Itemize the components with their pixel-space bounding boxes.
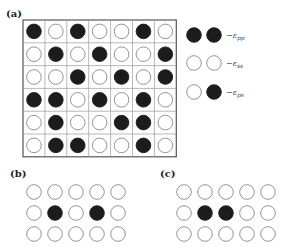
filled-site [136,115,151,130]
empty-site [48,227,63,242]
empty-site [261,185,276,200]
legend-site-right [207,28,222,43]
empty-site [49,24,64,39]
filled-site [198,206,213,221]
empty-site [114,24,129,39]
empty-site [240,227,255,242]
legend-label: −εss [226,59,243,69]
filled-site [27,93,42,108]
empty-site [92,138,107,153]
filled-site [49,138,64,153]
empty-site [49,70,64,85]
empty-site [69,206,84,221]
empty-site [136,70,151,85]
empty-site [92,24,107,39]
empty-site [111,185,126,200]
panel-a-grid [23,20,176,157]
empty-site [92,115,107,130]
empty-site [177,206,192,221]
legend-site-left [187,56,202,71]
empty-site [69,227,84,242]
empty-site [48,185,63,200]
empty-site [261,227,276,242]
filled-site [92,93,107,108]
empty-site [158,93,173,108]
legend-site-right [207,56,222,71]
empty-site [27,70,42,85]
filled-site [136,24,151,39]
empty-site [27,138,42,153]
legend-item-ss: −εss [187,56,243,71]
filled-site [49,93,64,108]
legend: −εpp−εss−εps [187,28,245,100]
filled-site [136,138,151,153]
empty-site [177,185,192,200]
empty-site [114,47,129,62]
filled-site [27,24,42,39]
empty-site [240,206,255,221]
legend-label: −εpp [226,31,245,42]
legend-site-right [207,85,222,100]
legend-subscript: pp [237,34,245,42]
empty-site [114,93,129,108]
filled-site [92,47,107,62]
empty-site [111,206,126,221]
filled-site [114,115,129,130]
filled-site [70,138,85,153]
empty-site [136,47,151,62]
empty-site [92,70,107,85]
empty-site [27,185,42,200]
empty-site [70,115,85,130]
filled-site [90,206,105,221]
empty-site [261,206,276,221]
empty-site [198,185,213,200]
empty-site [27,206,42,221]
empty-site [158,138,173,153]
filled-site [158,47,173,62]
empty-site [240,185,255,200]
empty-site [177,227,192,242]
filled-site [70,70,85,85]
empty-site [90,227,105,242]
empty-site [90,185,105,200]
filled-site [158,70,173,85]
empty-site [69,185,84,200]
legend-label: −εps [226,88,244,99]
filled-site [70,24,85,39]
empty-site [114,138,129,153]
empty-site [70,47,85,62]
empty-site [219,185,234,200]
empty-site [27,47,42,62]
empty-site [158,115,173,130]
legend-subscript: ps [237,91,244,99]
legend-item-pp: −εpp [187,28,245,43]
legend-site-left [187,28,202,43]
filled-site [114,70,129,85]
filled-site [49,115,64,130]
empty-site [158,24,173,39]
empty-site [198,227,213,242]
empty-site [27,115,42,130]
panel-c-grid [177,185,276,242]
empty-site [70,93,85,108]
empty-site [27,227,42,242]
legend-subscript: ss [237,62,243,69]
panel-b-grid [27,185,126,242]
filled-site [136,93,151,108]
diagram-canvas: −εpp−εss−εps [0,0,287,252]
legend-site-left [187,85,202,100]
filled-site [219,206,234,221]
filled-site [49,47,64,62]
empty-site [111,227,126,242]
filled-site [48,206,63,221]
legend-item-ps: −εps [187,85,244,100]
empty-site [219,227,234,242]
